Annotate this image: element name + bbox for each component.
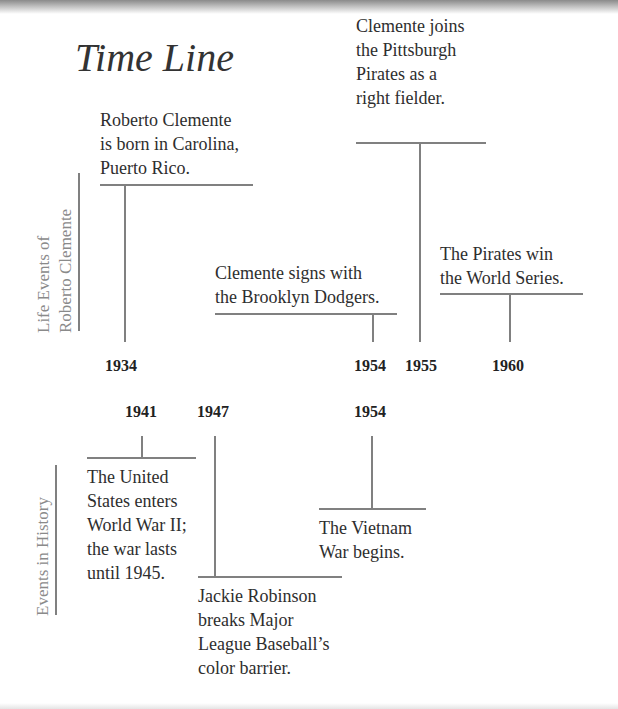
event-1947-text: Jackie Robinson breaks Major League Base… (198, 584, 329, 680)
side-label-life-events: Life Events of Roberto Clemente (33, 173, 77, 333)
year-1934: 1934 (105, 357, 137, 375)
side-divider-life (78, 173, 80, 331)
event-1954-dodgers-bar (215, 313, 397, 315)
bottom-edge-shadow (0, 703, 618, 709)
year-1941: 1941 (125, 403, 157, 421)
event-1941-text: The United States enters World War II; t… (87, 465, 187, 585)
side-divider-history (55, 465, 57, 615)
page-title: Time Line (75, 34, 234, 81)
event-1955-stem (419, 143, 421, 342)
event-1941-stem (141, 436, 143, 458)
event-1954-vietnam-text: The Vietnam War begins. (319, 516, 412, 564)
event-1955-bar (356, 142, 486, 144)
event-1954-vietnam-bar (319, 508, 426, 510)
event-1954-dodgers-text: Clemente signs with the Brooklyn Dodgers… (215, 261, 379, 309)
year-1955: 1955 (405, 357, 437, 375)
event-1960-stem (509, 294, 511, 342)
event-1941-bar (87, 457, 196, 459)
year-1947: 1947 (197, 403, 229, 421)
event-1947-bar (198, 576, 342, 578)
year-1960: 1960 (492, 357, 524, 375)
year-1954-life: 1954 (354, 357, 386, 375)
top-edge-shadow (0, 0, 618, 14)
event-1955-text: Clemente joins the Pittsburgh Pirates as… (356, 14, 464, 110)
event-1954-dodgers-stem (372, 314, 374, 342)
event-1960-bar (440, 293, 583, 295)
event-1934-stem (124, 185, 126, 342)
event-1960-text: The Pirates win the World Series. (440, 242, 564, 290)
event-1934-bar (100, 184, 253, 186)
side-label-history: Events in History (32, 461, 54, 616)
year-1954-history: 1954 (354, 403, 386, 421)
event-1947-stem (214, 436, 216, 577)
event-1954-vietnam-stem (371, 436, 373, 509)
event-1934-text: Roberto Clemente is born in Carolina, Pu… (100, 108, 239, 180)
